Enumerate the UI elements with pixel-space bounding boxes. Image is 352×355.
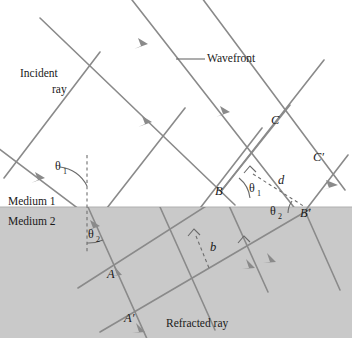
arrowhead-incident-3 [134, 38, 148, 49]
medium1-label: Medium 1 [8, 195, 56, 207]
theta1-incidence-subscript: 1 [63, 167, 67, 176]
point-B-prime-label: B′ [300, 206, 311, 220]
wavefront-label: Wavefront [207, 52, 256, 64]
theta2-atBprime-symbol: θ [270, 204, 276, 218]
point-B-label: B [215, 184, 223, 198]
theta2-refraction-symbol: θ [88, 227, 94, 241]
diagram-canvas: Wavefront Incident ray Medium 1 Medium 2… [0, 0, 352, 355]
theta1-atB-subscript: 1 [257, 189, 261, 198]
theta2-refraction-subscript: 2 [96, 235, 100, 244]
distance-b-label: b [210, 240, 216, 254]
incident-ray-label-line1: Incident [20, 67, 58, 79]
point-A-prime-label: A′ [123, 311, 135, 325]
incident-rays-group [0, 0, 345, 225]
incident-ray-2 [40, 18, 235, 205]
point-C-prime-label: C′ [313, 150, 324, 164]
distance-d-label: d [278, 173, 285, 187]
incident-ray-3 [118, 0, 300, 215]
theta2-atBprime-subscript: 2 [278, 212, 282, 221]
refraction-diagram-figure: Wavefront Incident ray Medium 1 Medium 2… [0, 0, 352, 355]
point-C-label: C [271, 113, 280, 127]
refracted-ray-label: Refracted ray [166, 317, 229, 330]
theta1-atB-symbol: θ [249, 181, 255, 195]
wavefront-BprimeCprime [305, 155, 348, 211]
point-A-label: A [106, 267, 115, 281]
right-angle-mark-d [244, 166, 256, 173]
theta1-incidence-symbol: θ [55, 159, 61, 173]
medium2-label: Medium 2 [8, 215, 56, 227]
theta1-atB-label: θ 1 [249, 181, 261, 198]
incident-ray-label-line2: ray [52, 83, 67, 96]
